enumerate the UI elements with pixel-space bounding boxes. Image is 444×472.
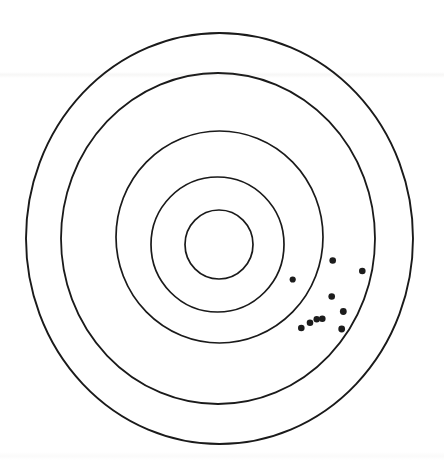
impact-point [329,257,336,264]
impact-point [298,325,305,332]
figure-background [0,0,444,472]
impact-point [338,326,345,333]
impact-point [340,308,347,315]
impact-point [290,276,296,282]
target-figure: Shooting target with scored impact point… [0,0,444,472]
impact-point [359,268,366,275]
impact-point [319,315,326,322]
impact-point [328,293,335,300]
impact-point [314,316,320,322]
target-diagram: Shooting target with scored impact point… [0,0,444,472]
impact-point [307,319,314,326]
